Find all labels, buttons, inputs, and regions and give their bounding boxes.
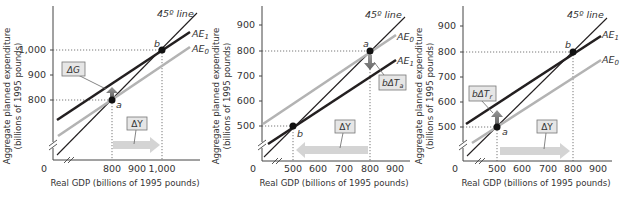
point-b-label: b: [297, 128, 303, 139]
y-tick: 700: [438, 71, 456, 82]
charts-svg: Aggregate planned expenditure (billions …: [0, 0, 622, 200]
y-tick: 800: [28, 94, 46, 105]
y-tick: 1,000: [19, 44, 46, 55]
y-axis-label-line1: Aggregate planned expenditure: [2, 28, 12, 165]
line-45-degree: [57, 13, 197, 155]
delta-y-arrow-icon: [500, 143, 570, 159]
x-tick: 600: [513, 163, 531, 174]
y-tick: 900: [237, 19, 255, 30]
ae0-line: [263, 35, 396, 124]
point-b-label: b: [154, 38, 160, 49]
x-tick: 900: [386, 163, 404, 174]
x-tick: 700: [539, 163, 557, 174]
panel-1: Aggregate planned expenditure (billions …: [2, 6, 210, 188]
origin-label: 0: [452, 163, 458, 174]
line-45-label: 45º line: [157, 8, 194, 19]
panel-3: Aggregate planned expenditure (billions …: [414, 6, 620, 188]
y-tick: 700: [237, 70, 255, 81]
y-tick: 900: [438, 20, 456, 31]
x-tick: 800: [564, 163, 582, 174]
delta-y-label: ΔY: [541, 122, 553, 132]
point-b: [290, 123, 297, 130]
x-tick: 700: [335, 163, 353, 174]
y-axis-label-line2: (billions of 1995 pounds): [425, 43, 435, 150]
x-tick: 900: [589, 163, 607, 174]
x-axis-label: Real GDP (billions of 1995 pounds): [259, 178, 408, 188]
delta-y-arrow-icon: [296, 142, 368, 158]
point-a: [494, 124, 501, 131]
panel-2: Aggregate planned expenditure (billions …: [211, 6, 415, 188]
x-axis-label: Real GDP (billions of 1995 pounds): [461, 178, 610, 188]
y-tick: 600: [237, 95, 255, 106]
point-b-label: b: [565, 39, 571, 50]
origin-label: 0: [250, 163, 256, 174]
x-axis-label: Real GDP (billions of 1995 pounds): [50, 178, 199, 188]
x-tick: 500: [284, 163, 302, 174]
ae1-label: AE1: [191, 28, 209, 41]
point-a: [109, 97, 116, 104]
origin-label: 0: [41, 163, 47, 174]
figure: Aggregate planned expenditure (billions …: [0, 0, 622, 200]
y-axis-label-line2: (billions of 1995 pounds): [222, 43, 232, 150]
delta-y-arrow-icon: [113, 137, 160, 153]
ae0-label: AE0: [601, 54, 620, 67]
y-axis-label-line2: (billions of 1995 pounds): [13, 43, 23, 150]
y-tick: 600: [438, 96, 456, 107]
x-tick: 800: [361, 163, 379, 174]
ae1-label: AE1: [601, 29, 619, 42]
x-tick: 600: [309, 163, 327, 174]
x-tick: 900: [128, 163, 146, 174]
delta-g-label: ΔG: [66, 65, 80, 75]
y-tick: 800: [237, 45, 255, 56]
delta-y-label: ΔY: [131, 119, 143, 129]
delta-y-label: ΔY: [339, 122, 351, 132]
y-tick: 900: [28, 69, 46, 80]
y-tick: 500: [237, 120, 255, 131]
point-a-label: a: [363, 38, 369, 49]
point-a-label: a: [116, 99, 122, 110]
ae1-label: AE1: [396, 55, 414, 68]
ae1-line: [268, 60, 396, 144]
ae0-line: [472, 60, 601, 143]
y-tick: 800: [438, 46, 456, 57]
x-tick: 1,000: [148, 163, 175, 174]
x-tick: 800: [103, 163, 121, 174]
ae0-line: [58, 47, 190, 136]
ae0-label: AE0: [396, 31, 415, 44]
y-axis-label-line1: Aggregate planned expenditure: [211, 28, 221, 165]
ae0-label: AE0: [191, 43, 210, 56]
line-45-label: 45º line: [567, 9, 604, 20]
y-axis-label-line1: Aggregate planned expenditure: [414, 28, 424, 165]
x-tick: 500: [488, 163, 506, 174]
ae1-line: [466, 36, 601, 124]
y-tick: 500: [438, 121, 456, 132]
line-45-label: 45º line: [365, 9, 402, 20]
point-a-label: a: [502, 126, 508, 137]
